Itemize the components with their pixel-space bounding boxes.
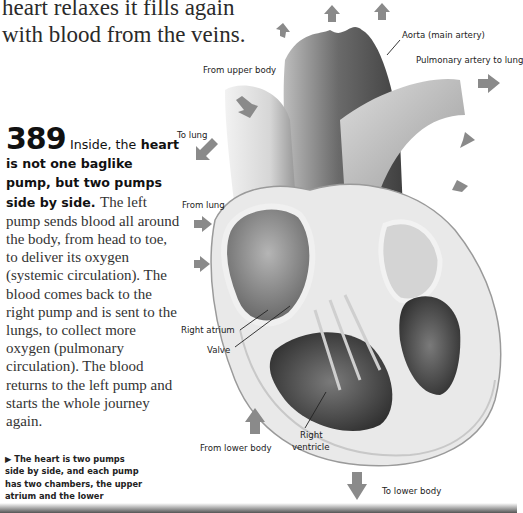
arrow-right-icon [478, 74, 500, 93]
label-pulmonary-artery: Pulmonary artery to lung [416, 55, 523, 65]
label-valve: Valve [207, 345, 230, 355]
bottom-rule [0, 503, 517, 513]
arrow-right-icon [194, 216, 212, 232]
heart-illustration [211, 27, 501, 466]
arrow-right-icon [460, 132, 475, 148]
label-to-lung: To lung [177, 130, 208, 140]
arrow-up-icon [374, 3, 390, 20]
label-right-ventricle-2: ventricle [292, 442, 330, 452]
label-right-atrium: Right atrium [181, 325, 235, 335]
arrow-up-icon [276, 23, 290, 38]
arrow-right-icon [452, 180, 468, 192]
label-aorta: Aorta (main artery) [402, 30, 485, 40]
label-from-lung: From lung [182, 200, 225, 210]
arrow-right-icon [194, 256, 210, 272]
arrow-down-icon [347, 472, 367, 500]
label-from-upper-body: From upper body [203, 65, 276, 75]
label-to-lower-body: To lower body [382, 486, 441, 496]
label-right-ventricle-1: Right [300, 430, 323, 440]
arrow-up-icon [324, 5, 340, 22]
arrow-down-left-icon [196, 138, 218, 160]
label-from-lower-body: From lower body [200, 443, 272, 453]
